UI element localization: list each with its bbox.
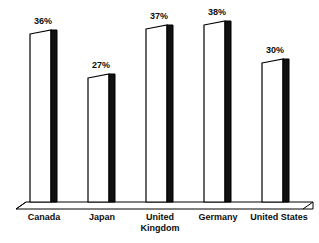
bar-united-kingdom [146, 25, 173, 202]
plot-area: 36% 27% 37% 38% 30% Canada Japan United … [0, 0, 319, 243]
bar-chart: 36% 27% 37% 38% 30% Canada Japan United … [0, 0, 319, 243]
value-label-germany: 38% [197, 7, 237, 17]
value-label-japan: 27% [81, 60, 121, 70]
value-label-united-kingdom: 37% [139, 11, 179, 21]
value-label-united-states: 30% [255, 45, 295, 55]
category-label-germany: Germany [189, 212, 247, 223]
category-label-japan: Japan [73, 212, 131, 223]
bar-canada [30, 30, 57, 202]
chart-graphics [0, 0, 319, 243]
category-label-united-kingdom: United Kingdom [131, 212, 189, 234]
category-label-canada: Canada [15, 212, 73, 223]
bar-japan [88, 74, 115, 202]
bar-germany [204, 21, 231, 202]
floor-base [16, 202, 313, 209]
bar-united-states [262, 59, 289, 202]
category-label-united-states: United States [243, 212, 315, 223]
value-label-canada: 36% [23, 16, 63, 26]
